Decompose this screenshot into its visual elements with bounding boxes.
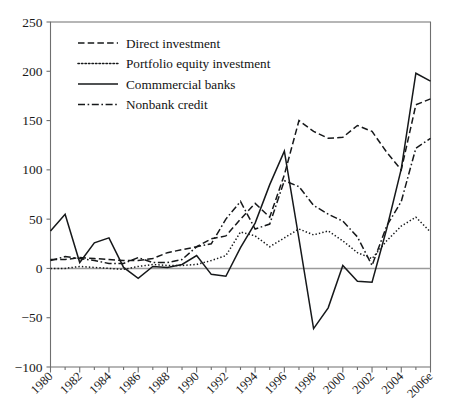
x-axis-tick-label: 2002 bbox=[350, 369, 378, 397]
line-chart: −100−50050100150200250198019821984198619… bbox=[0, 0, 451, 417]
legend-label-portfolio-equity-investment: Portfolio equity investment bbox=[126, 56, 271, 71]
x-axis-tick-label: 1986 bbox=[116, 369, 144, 397]
x-axis-tick-label: 1982 bbox=[57, 369, 85, 397]
legend-label-commmercial-banks: Commmercial banks bbox=[126, 77, 236, 92]
x-axis-tick-label: 2004 bbox=[379, 369, 407, 397]
y-axis-tick-label: 0 bbox=[36, 261, 43, 276]
x-axis-tick-label: 2000 bbox=[320, 369, 348, 397]
y-axis-tick-label: 250 bbox=[22, 15, 43, 30]
x-axis-tick-label: 1996 bbox=[262, 369, 290, 397]
x-axis-tick-label: 1998 bbox=[291, 369, 319, 397]
x-axis-tick-label: 2006e bbox=[404, 369, 436, 401]
y-axis-tick-label: −100 bbox=[15, 360, 43, 375]
chart-container: −100−50050100150200250198019821984198619… bbox=[0, 0, 451, 417]
x-axis-tick-label: 1992 bbox=[203, 369, 231, 397]
x-axis-tick-label: 1990 bbox=[174, 369, 202, 397]
y-axis-tick-label: 200 bbox=[22, 64, 43, 79]
plot-frame bbox=[51, 22, 431, 367]
x-axis-tick-label: 1984 bbox=[87, 369, 115, 397]
y-axis-tick-label: 100 bbox=[22, 162, 43, 177]
y-axis-tick-label: −50 bbox=[21, 310, 42, 325]
x-axis-tick-label: 1988 bbox=[145, 369, 173, 397]
legend-label-direct-investment: Direct investment bbox=[126, 36, 220, 51]
y-axis-tick-label: 50 bbox=[29, 212, 43, 227]
y-axis-tick-label: 150 bbox=[22, 113, 43, 128]
x-axis-tick-label: 1994 bbox=[233, 369, 261, 397]
legend-label-nonbank-credit: Nonbank credit bbox=[126, 97, 208, 112]
series-line-direct-investment bbox=[51, 99, 431, 261]
